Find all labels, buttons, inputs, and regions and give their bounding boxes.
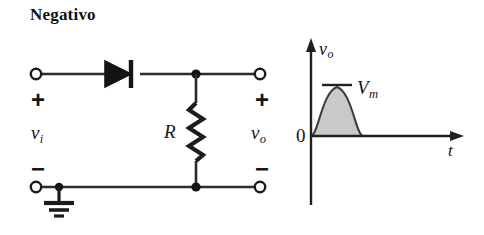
y-axis-label-base: v <box>319 39 327 59</box>
peak-amplitude-label-sub: m <box>369 87 378 101</box>
input-minus-sign: − <box>31 157 45 181</box>
input-terminal-positive[interactable] <box>31 69 41 79</box>
origin-label: 0 <box>296 126 306 145</box>
schematic-and-plot-canvas <box>0 0 484 235</box>
input-voltage-label-sub: i <box>40 132 43 146</box>
y-axis-label: vo <box>319 40 333 61</box>
diode-anode-triangle <box>105 61 131 87</box>
input-terminal-negative[interactable] <box>31 182 41 192</box>
x-axis-arrowhead <box>450 131 464 141</box>
y-axis-label-sub: o <box>327 47 333 61</box>
input-voltage-label-base: v <box>31 122 39 143</box>
peak-amplitude-label: Vm <box>357 78 378 100</box>
diode <box>105 60 131 88</box>
peak-amplitude-label-base: V <box>357 77 369 98</box>
x-axis-label: t <box>448 142 453 159</box>
output-waveform-plot <box>306 38 464 205</box>
output-voltage-label: vo <box>251 123 266 145</box>
output-voltage-label-sub: o <box>260 132 266 146</box>
input-plus-sign: + <box>31 88 45 112</box>
figure-root: Negativo <box>0 0 484 235</box>
resistor-label: R <box>164 122 176 141</box>
output-minus-sign: − <box>255 157 269 181</box>
junction-dot-bottom <box>191 182 200 191</box>
input-voltage-label: vi <box>31 123 43 145</box>
waveform-pulse-area <box>311 87 363 136</box>
output-terminal-positive[interactable] <box>255 69 265 79</box>
output-terminal-negative[interactable] <box>255 182 265 192</box>
resistor-zigzag <box>189 103 203 161</box>
output-voltage-label-base: v <box>251 122 259 143</box>
output-plus-sign: + <box>255 88 269 112</box>
y-axis-arrowhead <box>306 38 316 52</box>
